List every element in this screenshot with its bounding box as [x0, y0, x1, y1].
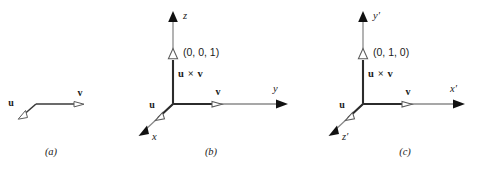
panel-b-axis-label-z: z — [182, 10, 187, 21]
panel-b-label-u: u — [149, 99, 155, 110]
panel-b-axis-y-arrowhead — [276, 99, 288, 108]
panel-b-label-v: v — [216, 86, 221, 97]
panel-a-label-v: v — [78, 87, 83, 98]
panel-c-vector-v-arrowhead — [402, 101, 412, 107]
panel-c: y′ (0, 1, 0) u × v x′ v z′ u (c) — [329, 10, 466, 158]
panel-a-label-u: u — [8, 97, 14, 108]
panel-c-caption: (c) — [399, 146, 411, 158]
panel-a-caption: (a) — [45, 146, 58, 158]
panel-c-label-u: u — [339, 99, 345, 110]
panel-c-axis-label-xprime: x′ — [449, 83, 458, 94]
panel-a-vector-v-arrowhead — [74, 102, 84, 107]
panel-c-axis-label-yprime: y′ — [372, 10, 381, 21]
panel-b-coordinate-label: (0, 0, 1) — [183, 46, 219, 58]
panel-c-label-v: v — [406, 86, 411, 97]
panel-b-vector-v-arrowhead — [212, 101, 222, 107]
panel-c-coordinate-label: (0, 1, 0) — [373, 46, 409, 58]
panel-c-axis-yprime-arrowhead — [358, 11, 368, 22]
panel-a-vector-u-arrowhead — [18, 111, 27, 120]
panel-b-vector-u-arrowhead — [156, 113, 165, 121]
panel-b-vector-cross-arrowhead — [168, 49, 177, 59]
diagram-canvas: u v (a) z (0, 0, 1) u × v y v — [0, 0, 488, 171]
panel-c-axis-label-zprime: z′ — [341, 131, 349, 142]
panel-c-vector-u-arrowhead — [346, 113, 355, 121]
panel-b: z (0, 0, 1) u × v y v x u (b) — [139, 10, 289, 158]
panel-b-axis-z-arrowhead — [168, 11, 178, 22]
panel-c-axis-xprime-arrowhead — [453, 99, 465, 108]
panel-c-label-u-cross-v: u × v — [368, 68, 393, 79]
figure-cross-product-diagram: u v (a) z (0, 0, 1) u × v y v — [0, 0, 488, 171]
panel-c-vector-cross-arrowhead — [358, 49, 367, 59]
panel-b-axis-label-x: x — [151, 131, 157, 142]
panel-b-label-u-cross-v: u × v — [178, 68, 203, 79]
panel-a: u v (a) — [8, 87, 84, 158]
panel-b-caption: (b) — [205, 146, 218, 158]
panel-b-axis-label-y: y — [272, 83, 278, 94]
